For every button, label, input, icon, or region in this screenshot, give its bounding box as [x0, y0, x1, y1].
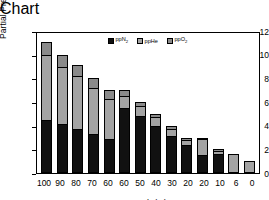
bar-segment-ppHe [104, 99, 115, 139]
bar-stack-60-5 [119, 90, 130, 173]
x-tick-label-0: 100 [36, 178, 52, 190]
bar-segment-ppN2 [166, 136, 177, 173]
y-axis-title: Partial Pressure [0, 0, 8, 58]
bar-stack-100-0 [41, 42, 52, 173]
bar-stack-10-11 [213, 149, 224, 173]
bar-segment-ppHe [41, 55, 52, 120]
bar-stack-60-4 [104, 90, 115, 173]
bar-column [132, 33, 148, 173]
bar-segment-ppHe [119, 96, 130, 108]
bar-column [86, 33, 102, 173]
bar-segment-ppN2 [213, 154, 224, 173]
bar-column [39, 33, 55, 173]
bar-segment-ppN2 [135, 116, 146, 173]
x-tick-label-10: 20 [196, 178, 212, 190]
legend-item-ppN2: ppN2 [108, 36, 128, 45]
legend-label-ppO2: ppO2 [174, 36, 187, 45]
bar-stack-6-12 [228, 154, 239, 173]
bar-column [164, 33, 180, 173]
bar-column [179, 33, 195, 173]
legend-label-ppN2: ppN2 [116, 36, 129, 45]
x-axis-title: Depth (m) [36, 198, 260, 200]
x-tick-label-1: 90 [52, 178, 68, 190]
bar-stack-20-9 [181, 138, 192, 173]
bar-column [117, 33, 133, 173]
bar-column [101, 33, 117, 173]
bar-segment-ppO2 [57, 55, 68, 67]
bar-segment-ppO2 [72, 65, 83, 76]
x-tick-label-6: 50 [132, 178, 148, 190]
legend-item-ppHe: ppHe [137, 38, 158, 44]
legend-swatch-ppO2 [167, 38, 173, 44]
bar-segment-ppN2 [88, 134, 99, 173]
bar-segment-ppHe [72, 76, 83, 129]
bar-segment-ppN2 [41, 120, 52, 173]
bar-segment-ppN2 [119, 108, 130, 173]
plot-area [36, 32, 260, 174]
legend-label-ppHe: ppHe [145, 38, 158, 44]
bar-column [70, 33, 86, 173]
bars-layer [37, 33, 259, 173]
bar-segment-ppHe [57, 67, 68, 125]
bar-column [55, 33, 71, 173]
x-tick-label-4: 60 [100, 178, 116, 190]
bar-segment-ppHe [135, 106, 146, 116]
bar-segment-ppN2 [197, 155, 208, 173]
bar-stack-0-13 [244, 161, 255, 173]
legend-item-ppO2: ppO2 [167, 36, 187, 45]
x-tick-label-7: 40 [148, 178, 164, 190]
bar-segment-ppO2 [104, 90, 115, 99]
bar-column [242, 33, 258, 173]
bar-column [226, 33, 242, 173]
legend-swatch-ppHe [137, 38, 143, 44]
bar-segment-ppO2 [88, 78, 99, 88]
bar-stack-50-6 [135, 102, 146, 173]
bar-stack-70-3 [88, 78, 99, 173]
bar-segment-ppN2 [57, 124, 68, 173]
bar-segment-ppHe [150, 117, 161, 125]
x-tick-label-11: 10 [212, 178, 228, 190]
bar-stack-20-10 [197, 138, 208, 173]
partial-pressure-chart: Partial Pressure 121086420 ppN2ppHeppO2 … [0, 18, 269, 200]
bar-stack-40-7 [150, 114, 161, 173]
x-axis-ticks: 100908070606050403020201060 [36, 178, 260, 190]
bar-segment-ppN2 [72, 129, 83, 173]
bar-stack-90-1 [57, 55, 68, 173]
bar-column [148, 33, 164, 173]
x-tick-label-13: 0 [244, 178, 260, 190]
bar-segment-ppO2 [41, 42, 52, 55]
bar-segment-ppHe [88, 88, 99, 134]
bar-segment-ppN2 [181, 145, 192, 173]
bar-segment-ppHe [197, 139, 208, 155]
bar-column [210, 33, 226, 173]
bar-column [195, 33, 211, 173]
y-tick-mark-0 [32, 174, 36, 175]
x-tick-label-8: 30 [164, 178, 180, 190]
bar-segment-ppHe [228, 154, 239, 173]
chart-legend: ppN2ppHeppO2 [108, 36, 187, 45]
x-tick-label-5: 60 [116, 178, 132, 190]
x-tick-label-9: 20 [180, 178, 196, 190]
x-tick-label-3: 70 [84, 178, 100, 190]
x-tick-label-12: 6 [228, 178, 244, 190]
legend-swatch-ppN2 [108, 38, 114, 44]
bar-stack-30-8 [166, 126, 177, 173]
bar-segment-ppN2 [104, 139, 115, 173]
x-tick-label-2: 80 [68, 178, 84, 190]
bar-stack-80-2 [72, 65, 83, 173]
bar-segment-ppN2 [150, 126, 161, 173]
bar-segment-ppHe [244, 161, 255, 173]
